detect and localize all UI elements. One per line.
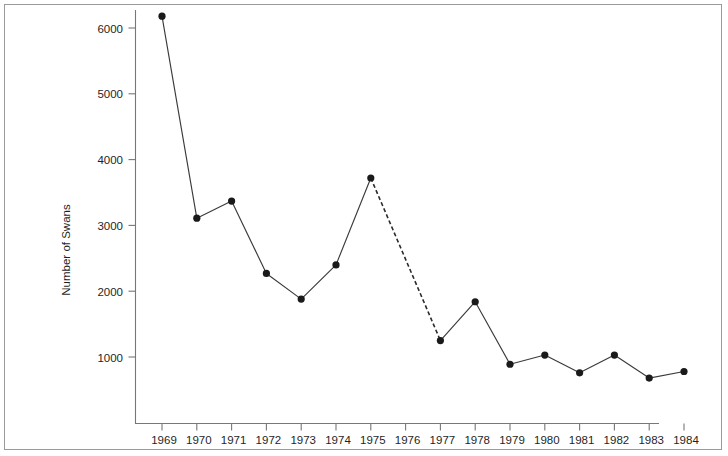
x-tick-label: 1984 (673, 434, 699, 446)
y-tick-label: 3000 (97, 220, 123, 232)
data-series-markers (158, 13, 687, 382)
x-tick-label: 1971 (221, 434, 247, 446)
data-point-marker (576, 369, 583, 376)
data-point-marker (611, 351, 618, 358)
x-tick-label: 1973 (290, 434, 316, 446)
data-point-marker (506, 361, 513, 368)
data-point-marker (680, 368, 687, 375)
data-line-dashed-segment (371, 178, 441, 341)
x-tick-label: 1970 (186, 434, 212, 446)
y-tick-label: 2000 (97, 286, 123, 298)
y-tick-label: 5000 (97, 88, 123, 100)
swan-population-line-chart: 1000 2000 3000 4000 5000 6000 Number of … (0, 0, 728, 456)
y-axis-title: Number of Swans (60, 204, 72, 296)
data-point-marker (437, 337, 444, 344)
x-tick-label: 1981 (569, 434, 595, 446)
x-tick-label: 1976 (395, 434, 421, 446)
x-tick-label: 1982 (604, 434, 630, 446)
y-tick-label: 6000 (97, 23, 123, 35)
data-point-marker (367, 174, 374, 181)
data-point-marker (646, 374, 653, 381)
data-series-dashed-line (371, 178, 441, 341)
x-tick-label: 1983 (638, 434, 664, 446)
x-tick-label: 1979 (499, 434, 525, 446)
x-tick-label: 1977 (430, 434, 456, 446)
data-line-segment (162, 16, 371, 299)
x-tick-label: 1975 (360, 434, 386, 446)
x-tick-label: 1974 (325, 434, 351, 446)
axis-lines (136, 10, 660, 424)
data-point-marker (158, 13, 165, 20)
data-line-segment (440, 302, 684, 378)
x-tick-label: 1972 (256, 434, 282, 446)
x-axis-tick-labels: 1969 1970 1971 1972 1973 1974 1975 1976 … (151, 434, 699, 446)
data-point-marker (472, 298, 479, 305)
data-point-marker (332, 261, 339, 268)
x-tick-label: 1978 (464, 434, 490, 446)
data-series-solid-lines (162, 16, 684, 378)
data-point-marker (193, 215, 200, 222)
data-point-marker (228, 197, 235, 204)
y-tick-label: 4000 (97, 154, 123, 166)
x-axis-ticks (162, 424, 684, 431)
data-point-marker (541, 351, 548, 358)
y-tick-label: 1000 (97, 352, 123, 364)
y-axis-ticks (129, 28, 136, 357)
y-axis-tick-labels: 1000 2000 3000 4000 5000 6000 (97, 23, 123, 364)
x-tick-label: 1969 (151, 434, 177, 446)
data-point-marker (263, 270, 270, 277)
x-tick-label: 1980 (534, 434, 560, 446)
figure-container: 1000 2000 3000 4000 5000 6000 Number of … (0, 0, 728, 456)
data-point-marker (298, 296, 305, 303)
